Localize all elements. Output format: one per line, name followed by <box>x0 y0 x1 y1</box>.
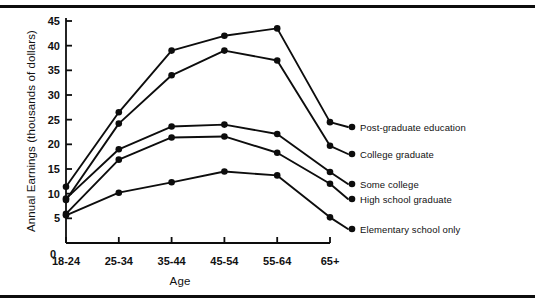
data-point-marker <box>63 183 70 190</box>
legend-label: College graduate <box>360 149 434 160</box>
data-point-marker <box>116 120 123 127</box>
data-point-marker <box>168 179 175 186</box>
data-point-marker <box>221 33 228 40</box>
series-line <box>66 136 330 213</box>
data-point-marker <box>221 47 228 54</box>
y-axis-title: Annual Earnings (thousands of dollars) <box>25 16 37 246</box>
series-group <box>63 25 334 221</box>
legend-label: Some college <box>360 179 419 190</box>
data-point-marker <box>116 109 123 116</box>
legend-leader-line <box>330 184 348 199</box>
data-point-marker <box>116 146 123 153</box>
data-point-marker <box>116 156 123 163</box>
legend-marker <box>349 124 356 131</box>
legend-marker <box>349 181 356 188</box>
data-point-marker <box>221 168 228 175</box>
legend-label: Elementary school only <box>360 224 460 235</box>
data-point-marker <box>274 172 281 179</box>
legend-leader-lines <box>330 122 355 232</box>
legend-leader-line <box>330 122 348 127</box>
y-axis-zero-label: 0 <box>50 248 56 260</box>
legend-leader-line <box>330 217 348 229</box>
data-point-marker <box>168 72 175 79</box>
legend-marker <box>349 196 356 203</box>
data-point-marker <box>274 131 281 138</box>
data-point-marker <box>274 25 281 32</box>
x-tick-label: 18-24 <box>52 255 80 267</box>
data-point-marker <box>168 134 175 141</box>
data-point-marker <box>221 121 228 128</box>
chart-figure: 51015202530354045 18-2425-3435-4445-5455… <box>0 0 535 306</box>
data-point-marker <box>221 133 228 140</box>
legend-leader-line <box>330 146 348 154</box>
x-tick-label: 65+ <box>321 255 340 267</box>
x-tick-label: 45-54 <box>210 255 238 267</box>
legend-marker <box>349 226 356 233</box>
legend-marker <box>349 151 356 158</box>
data-point-marker <box>63 195 70 202</box>
data-point-marker <box>116 189 123 196</box>
data-point-marker <box>63 212 70 219</box>
series-line <box>66 171 330 217</box>
x-tick-label: 35-44 <box>158 255 186 267</box>
data-point-marker <box>168 47 175 54</box>
x-tick-label: 55-64 <box>263 255 291 267</box>
series-line <box>66 28 330 186</box>
data-point-marker <box>168 123 175 130</box>
data-point-marker <box>274 57 281 64</box>
x-axis-title: Age <box>0 275 360 287</box>
series-line <box>66 125 330 199</box>
legend-label: High school graduate <box>360 194 452 205</box>
x-tick-label: 25-34 <box>105 255 133 267</box>
data-point-marker <box>274 149 281 156</box>
legend-label: Post-graduate education <box>360 122 466 133</box>
